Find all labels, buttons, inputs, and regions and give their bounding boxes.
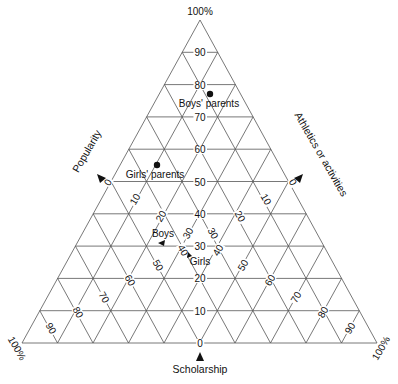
boys-arrow-icon [158, 240, 165, 246]
athletics-tick: 50 [235, 257, 250, 273]
scholarship-tick: 40 [194, 209, 206, 220]
popularity-axis-title: Popularity [70, 127, 104, 174]
scholarship-tick: 50 [194, 177, 206, 188]
girls-parents-label: Girls' parents [126, 169, 185, 180]
popularity-tick: 50 [150, 258, 165, 274]
scholarship-tick: 10 [194, 306, 206, 317]
scholarship-tick: 30 [194, 241, 206, 252]
athletics-tick: 10 [258, 192, 273, 208]
popularity-tick: 10 [127, 191, 142, 207]
scholarship-tick: 90 [194, 47, 206, 58]
scholarship-axis-title: Scholarship [173, 363, 228, 375]
popularity-tick: 90 [43, 321, 58, 337]
girls-parents-marker [154, 162, 160, 168]
scholarship-arrow-icon [196, 352, 204, 361]
athletics-axis-title: Athletics or activities [292, 110, 350, 198]
athletics-tick: 90 [342, 320, 357, 336]
athletics-tick: 60 [262, 272, 277, 288]
popularity-tick: 30 [180, 225, 195, 241]
boys-parents-marker [207, 91, 213, 97]
ternary-chart: 90 80 70 60 50 40 30 20 10 0 0 10 20 30 … [0, 0, 398, 384]
athletics-tick: 80 [315, 304, 330, 320]
scholarship-tick: 60 [194, 144, 206, 155]
popularity-tick: 20 [153, 208, 168, 224]
boys-parents-label: Boys' parents [179, 98, 239, 109]
top-corner-label: 100% [187, 6, 213, 17]
popularity-tick: 70 [96, 290, 111, 306]
athletics-tick: 70 [288, 289, 303, 305]
scholarship-tick: 80 [194, 80, 206, 91]
right-corner-label: 100% [370, 334, 392, 362]
scholarship-tick: 70 [194, 112, 206, 123]
girls-label: Girls [190, 256, 211, 267]
scholarship-tick: 20 [194, 273, 206, 284]
popularity-tick: 80 [70, 305, 85, 321]
boys-label: Boys [152, 228, 174, 239]
tick-labels: 90 80 70 60 50 40 30 20 10 0 0 10 20 30 … [43, 47, 357, 349]
scholarship-tick: 0 [197, 338, 203, 349]
athletics-tick: 40 [210, 242, 225, 258]
athletics-tick: 20 [232, 209, 247, 225]
